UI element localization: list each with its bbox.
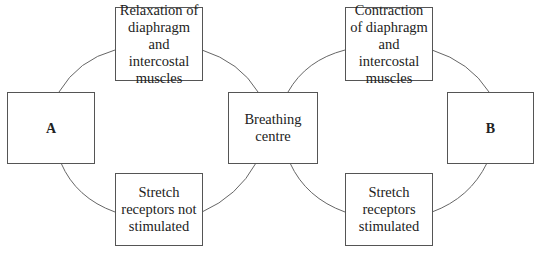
node-breathing-centre-label: Breathing centre (231, 111, 315, 145)
node-contraction: Contraction of diaphragm and intercostal… (345, 7, 433, 81)
node-stretch-stimulated-label: Stretch receptors stimulated (348, 184, 430, 235)
node-stretch-not-stimulated: Stretch receptors not stimulated (115, 173, 203, 246)
edge-b-stretch (432, 163, 487, 212)
edge-stretch-centre (290, 163, 345, 212)
node-relaxation: Relaxation of diaphragm and intercostal … (115, 7, 203, 81)
node-b: B (447, 92, 534, 164)
edge-centre-contract (288, 50, 345, 92)
node-b-label: B (486, 120, 495, 137)
node-stretch-not-stimulated-label: Stretch receptors not stimulated (118, 184, 200, 235)
node-contraction-label: Contraction of diaphragm and intercostal… (348, 2, 430, 87)
node-a-label: A (46, 120, 56, 137)
edge-relax-centre (202, 50, 258, 92)
edge-centre-stretchnot (202, 163, 256, 212)
edge-a-relax (59, 50, 115, 92)
node-stretch-stimulated: Stretch receptors stimulated (345, 173, 433, 246)
edge-stretchnot-a (61, 163, 115, 212)
node-breathing-centre: Breathing centre (228, 92, 318, 164)
node-relaxation-label: Relaxation of diaphragm and intercostal … (118, 2, 200, 87)
node-a: A (7, 92, 95, 164)
edge-contract-b (432, 50, 489, 92)
